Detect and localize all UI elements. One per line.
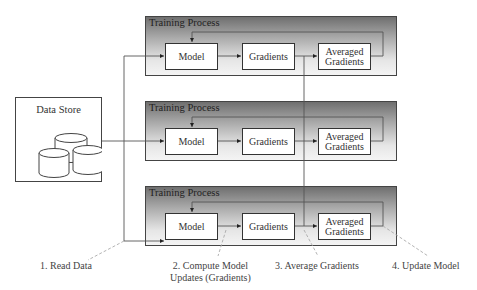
step-3-text: 3. Average Gradients bbox=[275, 260, 359, 271]
step-3-label: 3. Average Gradients bbox=[275, 260, 359, 272]
step-2-text-line1: 2. Compute Model bbox=[170, 260, 251, 272]
step-1-label: 1. Read Data bbox=[40, 260, 92, 272]
step-2-text-line2: Updates (Gradients) bbox=[170, 272, 251, 284]
step-4-label: 4. Update Model bbox=[392, 260, 460, 272]
connector-lines bbox=[0, 0, 477, 290]
step-1-text: 1. Read Data bbox=[40, 260, 92, 271]
step-4-text: 4. Update Model bbox=[392, 260, 460, 271]
step-2-label: 2. Compute Model Updates (Gradients) bbox=[170, 260, 251, 284]
